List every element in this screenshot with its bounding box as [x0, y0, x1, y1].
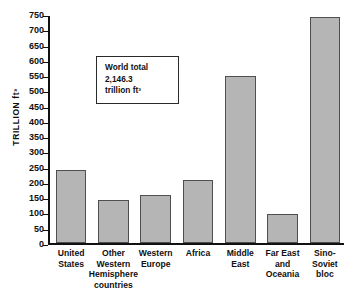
- tick-label: 750: [29, 10, 44, 21]
- tick-label: 350: [29, 132, 44, 143]
- bar-slot: [98, 14, 128, 243]
- bar-slot: [140, 14, 170, 243]
- category-label-line: Hemisphere: [86, 269, 142, 280]
- bar-slot: [267, 14, 297, 243]
- bar-chart: TRILLION ft³ 750700650600550500450400350…: [0, 0, 349, 300]
- category-label-line: Europe: [128, 259, 184, 270]
- category-label-line: Sino-: [297, 248, 349, 259]
- tick-label: 150: [29, 193, 44, 204]
- tick-label: 100: [29, 208, 44, 219]
- world-total-annotation: World total 2,146.3 trillion ft³: [96, 56, 179, 104]
- tick-label: 500: [29, 86, 44, 97]
- x-axis-category-labels: UnitedStatesOtherWesternHemispherecountr…: [50, 248, 346, 298]
- tick-label: 250: [29, 163, 44, 174]
- tick-label: 600: [29, 56, 44, 67]
- x-axis-line: [48, 243, 344, 245]
- bar-slot: [225, 14, 255, 243]
- bar: [140, 195, 170, 243]
- bars-layer: [50, 16, 344, 243]
- bar: [56, 170, 86, 243]
- tick-label: 200: [29, 178, 44, 189]
- bar: [267, 214, 297, 243]
- bar: [225, 76, 255, 243]
- annotation-line: World total: [105, 62, 171, 74]
- tick-label: 650: [29, 41, 44, 52]
- bar-slot: [56, 14, 86, 243]
- tick-label: 50: [34, 224, 44, 235]
- tick-label: 400: [29, 117, 44, 128]
- category-label-line: Soviet: [297, 259, 349, 270]
- bar-slot: [183, 14, 213, 243]
- tick-label: 700: [29, 25, 44, 36]
- tick-label: 550: [29, 71, 44, 82]
- plot-area: 7507006506005505004504003503002502001501…: [48, 16, 344, 245]
- bar-slot: [310, 14, 340, 243]
- bar: [310, 17, 340, 243]
- y-axis-title: TRILLION ft³: [11, 62, 21, 172]
- tick-label: 300: [29, 147, 44, 158]
- tick-label: 450: [29, 102, 44, 113]
- bar: [98, 200, 128, 243]
- category-label-line: bloc: [297, 269, 349, 280]
- category-label-line: countries: [86, 280, 142, 291]
- annotation-line: 2,146.3: [105, 74, 171, 86]
- category-label: Sino-Sovietbloc: [297, 248, 349, 280]
- bar: [183, 180, 213, 243]
- annotation-line: trillion ft³: [105, 85, 171, 97]
